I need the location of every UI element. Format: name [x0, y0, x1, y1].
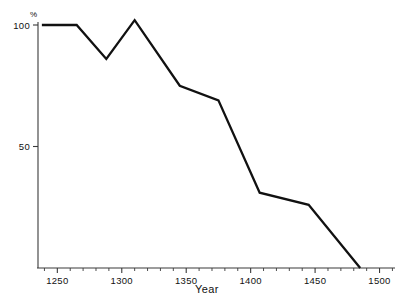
x-tick-label: 1300 [111, 275, 133, 286]
x-axis-title: Year [195, 283, 219, 295]
y-axis-unit-label: % [30, 10, 37, 19]
x-tick-label: 1500 [368, 275, 390, 286]
x-tick-label: 1250 [46, 275, 68, 286]
y-axis: 50100 [13, 20, 38, 269]
data-series-group [42, 20, 360, 268]
x-tick-label: 1450 [304, 275, 326, 286]
series-line [42, 20, 360, 268]
chart-figure: 50100 125013001350140014501500 % Year [0, 0, 409, 302]
y-tick-label: 100 [13, 20, 30, 31]
y-tick-label: 50 [19, 141, 30, 152]
x-tick-label: 1400 [239, 275, 261, 286]
x-tick-label: 1350 [175, 275, 197, 286]
line-chart: 50100 125013001350140014501500 % Year [0, 0, 409, 302]
